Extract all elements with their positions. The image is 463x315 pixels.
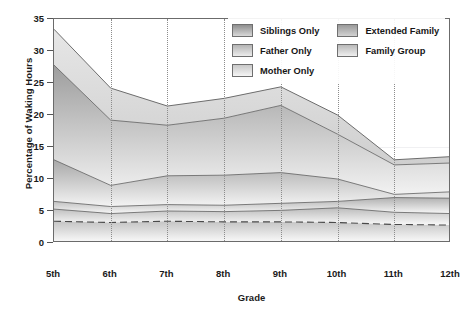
y-tick-30: 30 bbox=[14, 45, 44, 56]
y-tick-35: 35 bbox=[14, 13, 44, 24]
x-tick-10th: 10th bbox=[307, 268, 367, 279]
stacked-area-chart: Percentage of Waking Hours Grade 0510152… bbox=[0, 0, 463, 315]
legend-swatch-icon bbox=[337, 24, 358, 37]
x-tick-5th: 5th bbox=[23, 268, 83, 279]
legend-label: Family Group bbox=[365, 46, 425, 56]
legend-label: Father Only bbox=[260, 46, 312, 56]
legend-item-siblings-only[interactable]: Siblings Only bbox=[232, 22, 319, 39]
x-tick-8th: 8th bbox=[193, 268, 253, 279]
y-tick-5: 5 bbox=[14, 205, 44, 216]
y-tick-0: 0 bbox=[14, 237, 44, 248]
legend-item-mother-only[interactable]: Mother Only bbox=[232, 62, 319, 79]
x-tick-11th: 11th bbox=[363, 268, 423, 279]
legend-spacer bbox=[337, 62, 439, 79]
chart-legend: Siblings OnlyExtended FamilyFather OnlyF… bbox=[228, 18, 445, 83]
legend-item-family-group[interactable]: Family Group bbox=[337, 42, 439, 59]
y-tick-10: 10 bbox=[14, 173, 44, 184]
legend-label: Mother Only bbox=[260, 66, 314, 76]
legend-swatch-icon bbox=[232, 44, 253, 57]
legend-swatch-icon bbox=[337, 44, 358, 57]
x-tick-9th: 9th bbox=[250, 268, 310, 279]
gridline-7th bbox=[167, 19, 168, 241]
x-tick-7th: 7th bbox=[136, 268, 196, 279]
legend-label: Siblings Only bbox=[260, 26, 319, 36]
legend-item-extended-family[interactable]: Extended Family bbox=[337, 22, 439, 39]
gridline-6th bbox=[111, 19, 112, 241]
x-tick-12th: 12th bbox=[420, 268, 463, 279]
y-tick-25: 25 bbox=[14, 77, 44, 88]
x-tick-6th: 6th bbox=[80, 268, 140, 279]
y-tick-20: 20 bbox=[14, 109, 44, 120]
legend-item-father-only[interactable]: Father Only bbox=[232, 42, 319, 59]
y-tick-mark bbox=[47, 242, 53, 243]
legend-swatch-icon bbox=[232, 64, 253, 77]
x-axis-title: Grade bbox=[53, 292, 450, 303]
y-tick-15: 15 bbox=[14, 141, 44, 152]
y-axis-title: Percentage of Waking Hours bbox=[23, 34, 34, 214]
legend-label: Extended Family bbox=[365, 26, 439, 36]
gridline-8th bbox=[224, 19, 225, 241]
legend-swatch-icon bbox=[232, 24, 253, 37]
